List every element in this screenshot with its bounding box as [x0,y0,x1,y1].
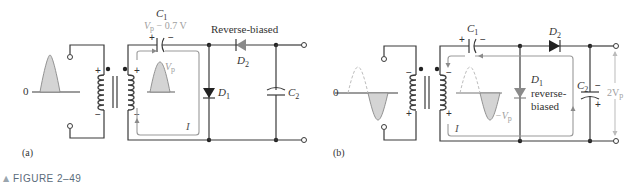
current-arrow-top-b [478,54,483,59]
current-path-b-top [448,56,465,66]
d1-status-line1-b: reverse- [531,87,567,99]
d2-status-a: Reverse-biased [211,23,279,35]
c1-voltage-label-a: Vp − 0.7 V [144,20,188,33]
polarity-dot-secondary-b [435,67,439,71]
current-label-b: I [454,122,460,134]
c2-plus-b: + [595,99,601,110]
caption-b: (b) [333,147,345,159]
c1-plus-a: + [149,32,155,43]
primary-coil-b [410,75,416,110]
primary-terminal-top-a [68,55,73,60]
output-terminal-bottom-a [302,138,307,143]
input-waveform-dashed-b [348,67,368,93]
secondary-wire-top-b [440,46,469,75]
d2-label-b: D2 [548,25,561,40]
primary-plus-a: + [95,65,101,76]
neg-vp-label-b: −Vp [495,110,512,123]
panel-b: 0 − + − + + − C1 D1 reverse- biased [333,22,625,159]
d1-label-b: D1 [530,73,543,88]
d1-diode-b [514,88,526,98]
c1-minus-b: − [480,34,486,45]
input-waveform-a [40,55,60,92]
primary-minus-b: − [406,67,412,78]
d1-label-a: D1 [217,86,230,101]
output-arrow-head-bottom-b [613,131,618,136]
primary-terminal-top-b [382,57,387,62]
d2-label-a: D2 [236,54,249,69]
current-arrow-top-a [152,49,157,54]
vp-label-a: Vp [165,61,175,74]
secondary-coil-a [128,75,134,110]
secondary-plus-a: + [134,65,140,76]
polarity-dot-secondary-a [123,67,127,71]
panel-a: 0 + − + − + − C1 Vp − 0.7 V [22,7,307,159]
primary-plus-b: + [406,108,412,119]
c2-label-a: C2 [288,86,299,101]
current-label-a: I [185,120,191,132]
polarity-dot-primary-b [419,67,423,71]
secondary-plus-b: + [446,108,452,119]
polarity-dot-primary-a [106,67,110,71]
primary-terminal-bottom-b [382,125,387,130]
primary-coil-a [98,75,104,110]
c1-minus-a: − [168,32,174,43]
zero-label-b: 0 [333,86,339,98]
d1-status-line2-b: biased [531,100,560,112]
zero-label-a: 0 [23,85,29,97]
output-arrow-head-top-b [613,51,618,56]
current-arrow-right-b [571,106,576,111]
secondary-coil-b [440,75,446,110]
output-terminal-bottom-b [614,139,619,144]
d2-diode-b [549,40,560,52]
voltage-doubler-diagram: 0 + − + − + − C1 Vp − 0.7 V [0,0,639,186]
secondary-minus-b: − [446,67,452,78]
c2-minus-b: − [595,80,601,91]
c1-plus-b: + [459,34,465,45]
output-terminal-top-a [302,43,307,48]
d2-diode-a [236,39,246,51]
figure-label: FIGURE 2–49 [13,173,81,184]
d1-diode-a [203,88,215,98]
caption-a: (a) [22,147,33,159]
input-waveform-b [368,93,388,120]
primary-terminal-bottom-a [68,124,73,129]
output-terminal-top-b [614,44,619,49]
figure-marker-icon: ▲ [3,174,10,183]
c1-label-b: C1 [467,22,478,37]
primary-minus-a: − [95,109,101,120]
secondary-waveform-dashed-b [460,67,480,93]
